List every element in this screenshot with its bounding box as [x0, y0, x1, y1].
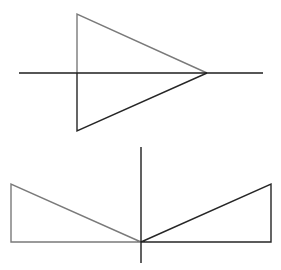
reflected-triangle-right — [141, 184, 271, 242]
figure-horizontal-reflection — [19, 14, 263, 131]
original-triangle-left — [11, 184, 141, 242]
reflection-diagram — [0, 0, 281, 270]
figure-vertical-reflection — [11, 147, 271, 263]
reflected-triangle-bottom — [77, 73, 207, 131]
original-triangle-top — [77, 14, 207, 73]
